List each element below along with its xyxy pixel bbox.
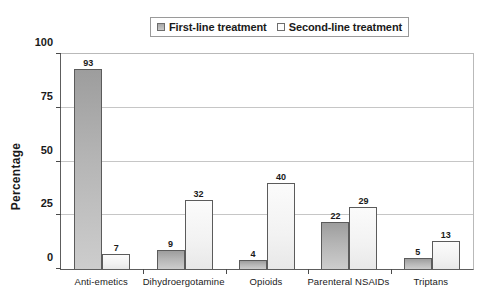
y-axis-title: Percentage	[8, 69, 24, 284]
x-axis-category-label: Parenteral NSAIDs	[307, 276, 389, 287]
x-axis-category-tick	[391, 269, 392, 274]
bar-group: 937	[61, 54, 143, 269]
bar-first-line[interactable]: 93	[74, 69, 102, 269]
filled-gray-square-icon	[157, 23, 165, 31]
bar-first-line[interactable]: 4	[239, 260, 267, 269]
bar-value-label: 4	[251, 250, 256, 259]
bar-group: 932	[143, 54, 225, 269]
bar-value-label: 7	[114, 244, 119, 253]
legend-entry-first-line: First-line treatment	[157, 22, 267, 33]
x-axis-category-label: Triptans	[390, 276, 472, 287]
bar-first-line[interactable]: 5	[404, 258, 432, 269]
x-axis-category-label: Anti-emetics	[60, 276, 142, 287]
bar-group: 440	[226, 54, 308, 269]
bar-second-line[interactable]: 13	[432, 241, 460, 269]
y-axis-tick-label: 50	[41, 144, 53, 156]
x-axis-category-labels: Anti-emeticsDihydroergotamineOpioidsPare…	[60, 276, 472, 287]
legend-label-second-line: Second-line treatment	[289, 22, 402, 33]
x-axis-category-tick	[308, 269, 309, 274]
empty-white-square-icon	[277, 23, 285, 31]
bar-value-label: 5	[415, 248, 420, 257]
chart-legend: First-line treatment Second-line treatme…	[150, 17, 409, 37]
bar-second-line[interactable]: 40	[267, 183, 295, 269]
x-axis-category-label: Opioids	[225, 276, 307, 287]
x-axis-category-label: Dihydroergotamine	[142, 276, 224, 287]
bar-second-line[interactable]: 29	[349, 207, 377, 269]
bar-value-label: 9	[168, 240, 173, 249]
bar-value-label: 29	[358, 197, 368, 206]
bar-value-label: 93	[83, 59, 93, 68]
bar-first-line[interactable]: 9	[157, 250, 185, 269]
bar-group: 513	[391, 54, 473, 269]
bar-groups: 9379324402229513	[61, 54, 473, 269]
y-axis-tick-label: 25	[41, 197, 53, 209]
chart-plot-area: 0255075100 9379324402229513	[60, 53, 474, 270]
bar-value-label: 13	[441, 231, 451, 240]
x-axis-category-tick	[143, 269, 144, 274]
bar-second-line[interactable]: 32	[185, 200, 213, 269]
y-axis-tick-label: 75	[41, 90, 53, 102]
y-axis-tick-label: 100	[35, 36, 53, 48]
legend-entry-second-line: Second-line treatment	[277, 22, 402, 33]
bar-value-label: 22	[330, 212, 340, 221]
bar-group: 2229	[308, 54, 390, 269]
legend-label-first-line: First-line treatment	[169, 22, 267, 33]
bar-value-label: 32	[194, 190, 204, 199]
x-axis-category-tick	[226, 269, 227, 274]
bar-first-line[interactable]: 22	[321, 222, 349, 269]
bar-value-label: 40	[276, 173, 286, 182]
bar-second-line[interactable]: 7	[102, 254, 130, 269]
y-axis-tick-label: 0	[47, 251, 53, 263]
